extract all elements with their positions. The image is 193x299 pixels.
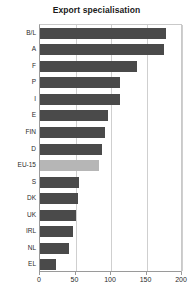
bar-row <box>40 177 183 188</box>
x-axis-label-50: 50 <box>71 276 79 283</box>
bar-b-l <box>40 28 166 39</box>
x-axis-tick-labels: 050100150200 <box>0 276 193 290</box>
x-tick-200 <box>181 272 182 275</box>
bar-fin <box>40 127 105 138</box>
bar-row <box>40 226 183 237</box>
bar-d <box>40 144 102 155</box>
bar-row <box>40 61 183 72</box>
bar-dk <box>40 193 78 204</box>
bar-row <box>40 77 183 88</box>
bar-row <box>40 160 183 171</box>
y-axis-label-s: S <box>0 178 36 185</box>
bar-row <box>40 28 183 39</box>
y-axis-label-nl: NL <box>0 244 36 251</box>
y-axis-label-b-l: B/L <box>0 29 36 36</box>
bar-row <box>40 144 183 155</box>
y-axis-label-uk: UK <box>0 211 36 218</box>
bar-el <box>40 259 56 270</box>
bar-row <box>40 94 183 105</box>
y-axis-label-fin: FIN <box>0 128 36 135</box>
bar-s <box>40 177 79 188</box>
export-specialisation-chart: Export specialisation B/LAFPIEFINDEU-15S… <box>0 0 193 299</box>
y-axis-label-eu-15: EU-15 <box>0 161 36 168</box>
x-tick-150 <box>146 272 147 275</box>
y-axis-label-p: P <box>0 78 36 85</box>
bar-row <box>40 193 183 204</box>
bar-e <box>40 110 108 121</box>
bar-row <box>40 44 183 55</box>
x-axis-label-100: 100 <box>104 276 116 283</box>
bar-a <box>40 44 164 55</box>
bar-p <box>40 77 120 88</box>
bar-uk <box>40 210 76 221</box>
y-axis-label-i: I <box>0 95 36 102</box>
y-axis-label-dk: DK <box>0 194 36 201</box>
y-axis-label-d: D <box>0 145 36 152</box>
y-axis-label-f: F <box>0 62 36 69</box>
bar-row <box>40 259 183 270</box>
x-axis-label-150: 150 <box>140 276 152 283</box>
bar-eu-15 <box>40 160 99 171</box>
x-axis-label-200: 200 <box>175 276 187 283</box>
bar-irl <box>40 226 73 237</box>
x-tick-100 <box>110 272 111 275</box>
x-tick-50 <box>75 272 76 275</box>
x-tick-0 <box>39 272 40 275</box>
bar-i <box>40 94 120 105</box>
chart-title: Export specialisation <box>0 5 193 15</box>
plot-area <box>39 24 182 272</box>
bar-f <box>40 61 137 72</box>
bar-row <box>40 127 183 138</box>
y-axis-category-labels: B/LAFPIEFINDEU-15SDKUKIRLNLEL <box>0 24 36 272</box>
bar-series <box>40 25 181 271</box>
bar-row <box>40 110 183 121</box>
bar-nl <box>40 243 69 254</box>
y-axis-label-e: E <box>0 111 36 118</box>
x-axis-label-0: 0 <box>37 276 41 283</box>
bar-row <box>40 210 183 221</box>
bar-row <box>40 243 183 254</box>
y-axis-label-el: EL <box>0 260 36 267</box>
y-axis-label-a: A <box>0 45 36 52</box>
y-axis-label-irl: IRL <box>0 227 36 234</box>
